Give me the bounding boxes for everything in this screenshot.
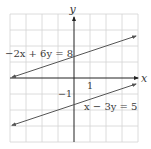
equation-label-1: −2x + 6y = 8 — [5, 48, 73, 59]
x-axis-label: x — [141, 72, 148, 85]
equation-label-2: x − 3y = 5 — [84, 101, 138, 112]
y-axis-label: y — [69, 3, 77, 16]
x-tick-label: 1 — [87, 80, 93, 91]
coordinate-plane: y x 1 −1 −2x + 6y = 8 x − 3y = 5 — [0, 0, 151, 149]
y-tick-label: −1 — [58, 88, 72, 99]
